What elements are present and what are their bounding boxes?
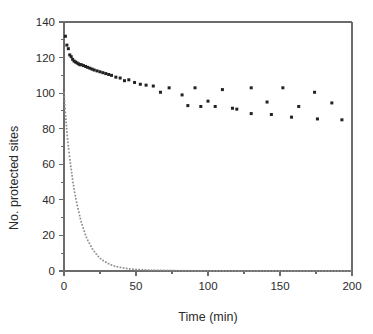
curve-dot — [328, 270, 330, 272]
fitted-decay-curve — [63, 92, 351, 272]
curve-dot — [294, 270, 296, 272]
data-point — [127, 78, 130, 81]
curve-dot — [129, 268, 131, 270]
data-point — [168, 86, 171, 89]
curve-dot — [347, 270, 349, 272]
data-point — [330, 101, 333, 104]
data-point — [316, 117, 319, 120]
curve-dot — [169, 270, 171, 272]
x-tick-label: 0 — [61, 280, 67, 292]
data-point — [290, 116, 293, 119]
chart-figure: 020406080100120140 050100150200 No. prot… — [0, 0, 373, 334]
curve-dot — [284, 270, 286, 272]
curve-dot — [92, 248, 94, 250]
data-point — [67, 47, 70, 50]
data-point — [145, 84, 148, 87]
curve-dot — [151, 269, 153, 271]
x-axis: 050100150200 — [61, 271, 362, 292]
curve-dot — [154, 269, 156, 271]
data-point — [123, 79, 126, 82]
curve-dot — [67, 141, 69, 143]
curve-dot — [74, 195, 76, 197]
curve-dot — [316, 270, 318, 272]
y-tick-label: 100 — [36, 87, 55, 99]
curve-dot — [63, 96, 65, 98]
data-point — [199, 105, 202, 108]
curve-dot — [250, 270, 252, 272]
curve-dot — [319, 270, 321, 272]
curve-dot — [312, 270, 314, 272]
data-point — [139, 83, 142, 86]
data-point — [70, 55, 73, 58]
curve-dot — [185, 270, 187, 272]
curve-dot — [73, 188, 75, 190]
curve-dot — [89, 242, 91, 244]
curve-dot — [247, 270, 249, 272]
data-point — [101, 71, 104, 74]
curve-dot — [176, 270, 178, 272]
y-tick-label: 0 — [49, 265, 55, 277]
curve-dot — [80, 221, 82, 223]
curve-dot — [331, 270, 333, 272]
curve-dot — [219, 270, 221, 272]
curve-dot — [210, 270, 212, 272]
curve-dot — [78, 211, 80, 213]
curve-dot — [83, 230, 85, 232]
curve-dot — [66, 131, 68, 133]
curve-dot — [204, 270, 206, 272]
curve-dot — [216, 270, 218, 272]
curve-dot — [74, 191, 76, 193]
data-point — [250, 112, 253, 115]
y-tick-label: 40 — [42, 194, 55, 206]
curve-dot — [66, 125, 68, 127]
curve-dot — [256, 270, 258, 272]
curve-dot — [70, 165, 72, 167]
scatter-points — [64, 35, 343, 122]
curve-dot — [64, 100, 66, 102]
curve-dot — [90, 245, 92, 247]
data-point — [133, 81, 136, 84]
curve-dot — [76, 205, 78, 207]
data-point — [186, 104, 189, 107]
curve-dot — [288, 270, 290, 272]
y-tick-label: 120 — [36, 52, 55, 64]
curve-dot — [266, 270, 268, 272]
curve-dot — [160, 270, 162, 272]
curve-dot — [72, 182, 74, 184]
curve-dot — [66, 135, 68, 137]
curve-dot — [334, 270, 336, 272]
y-tick-label: 60 — [42, 158, 55, 170]
curve-dot — [138, 269, 140, 271]
curve-dot — [322, 270, 324, 272]
data-point — [281, 86, 284, 89]
curve-dot — [76, 201, 78, 203]
curve-dot — [123, 267, 125, 269]
curve-dot — [182, 270, 184, 272]
curve-dot — [179, 270, 181, 272]
curve-dot — [65, 118, 67, 120]
curve-dot — [241, 270, 243, 272]
data-point — [214, 105, 217, 108]
data-point — [297, 105, 300, 108]
data-point — [159, 91, 162, 94]
curve-dot — [269, 270, 271, 272]
data-point — [270, 113, 273, 116]
curve-dot — [340, 270, 342, 272]
curve-dot — [281, 270, 283, 272]
curve-dot — [75, 198, 77, 200]
y-tick-label: 140 — [36, 16, 55, 28]
y-tick-label: 20 — [42, 229, 55, 241]
curve-dot — [309, 270, 311, 272]
curve-dot — [350, 270, 352, 272]
curve-dot — [72, 178, 74, 180]
curve-dot — [94, 251, 96, 253]
x-tick-label: 50 — [130, 280, 143, 292]
curve-dot — [64, 108, 66, 110]
x-tick-label: 100 — [198, 280, 217, 292]
x-tick-label: 200 — [342, 280, 361, 292]
data-point — [104, 72, 107, 75]
curve-dot — [96, 253, 98, 255]
y-axis-label: No. protected sites — [7, 126, 21, 230]
scatter-plot: 020406080100120140 050100150200 No. prot… — [0, 0, 373, 334]
curve-dot — [69, 159, 71, 161]
